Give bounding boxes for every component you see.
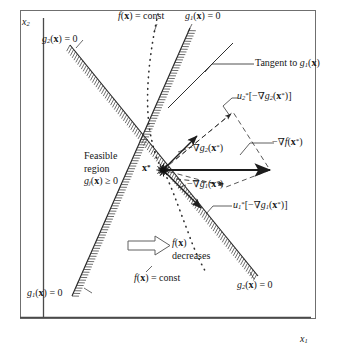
label-neg-grad-f: −∇f(x*) [272, 136, 303, 148]
label-g1-top: g1(x) = 0 [185, 10, 221, 22]
label-neg-grad-g2: −∇g2(x*) [187, 142, 223, 154]
leader-u2 [223, 98, 238, 116]
label-optimum-point: x* [142, 162, 151, 174]
kuhn-tucker-diagram: x2 x1 g2(x) = 0 f(x) = const g1(x) = 0 T… [0, 0, 339, 359]
f-decreases-block-arrow [128, 236, 170, 255]
label-u1-neg-grad-g1: u1*[−∇g1(x*)] [233, 199, 287, 211]
tangent-leader [205, 64, 254, 72]
label-neg-grad-g1: −∇g1(x*) [187, 178, 223, 190]
label-u2-neg-grad-g2: u2*[−∇g2(x*)] [237, 90, 291, 102]
label-f-decreases: f(x)decreases [172, 237, 210, 262]
label-f-const-top: f(x) = const [118, 10, 164, 22]
label-feasible-region: Feasibleregiongj(x) ≥ 0 [84, 150, 118, 188]
label-g1-bottom: g1(x) = 0 [27, 287, 63, 299]
axis-label-y: x2 [22, 16, 30, 28]
tangent-line-g1 [168, 43, 233, 108]
axis-label-x: x1 [300, 333, 308, 345]
label-g2-bottom: g2(x) = 0 [237, 279, 273, 291]
diagram-vector-layer [0, 0, 339, 359]
leader-u1 [206, 206, 232, 214]
leader-g1-bottom [84, 288, 92, 293]
label-tangent-to-g1: Tangent to g1(x) [255, 57, 320, 69]
label-f-const-bottom: f(x) = const [134, 272, 180, 284]
label-g2-top: g2(x) = 0 [42, 33, 78, 45]
